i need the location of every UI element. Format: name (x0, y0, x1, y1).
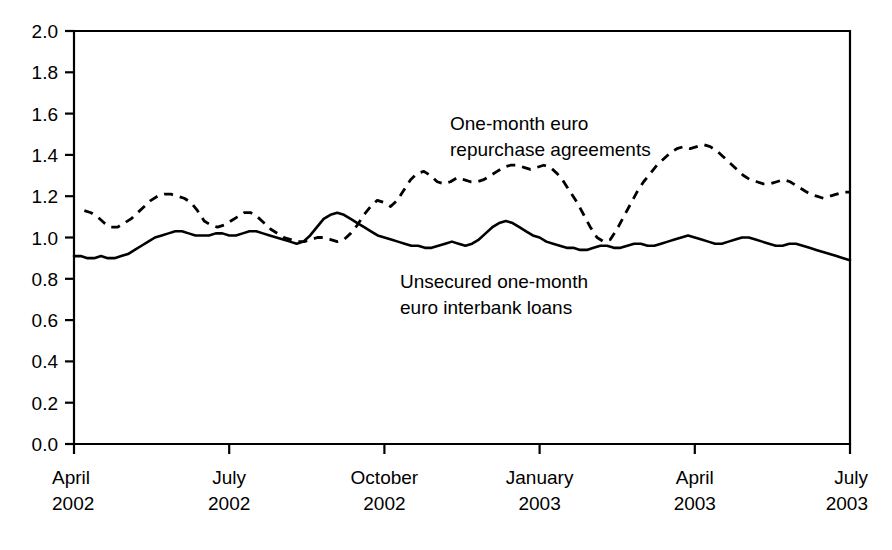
x-tick-label-year: 2002 (52, 493, 94, 514)
y-axis-tick-labels: 0.00.20.40.60.81.01.21.41.61.82.0 (32, 21, 59, 455)
x-tick-label-year: 2003 (674, 493, 716, 514)
x-tick-label-month: April (676, 467, 714, 488)
y-tick-label: 2.0 (32, 21, 58, 42)
y-tick-label: 0.0 (32, 434, 58, 455)
x-tick-label-month: January (506, 467, 574, 488)
annotation-repo: One-month euro repurchase agreements (450, 113, 651, 160)
x-axis-tick-labels: April2002July2002October2002January2003A… (52, 467, 868, 514)
annotation-repo-line1: One-month euro (450, 113, 588, 134)
y-tick-label: 0.8 (32, 269, 58, 290)
chart-figure: 0.00.20.40.60.81.01.21.41.61.82.0 April2… (0, 0, 892, 550)
y-axis-ticks (65, 31, 74, 444)
annotation-interbank-line1: Unsecured one-month (400, 271, 588, 292)
chart-canvas: 0.00.20.40.60.81.01.21.41.61.82.0 April2… (0, 0, 892, 550)
annotation-interbank-line2: euro interbank loans (400, 297, 572, 318)
x-tick-label-year: 2003 (518, 493, 560, 514)
x-tick-label-month: April (52, 467, 90, 488)
x-tick-label-month: July (212, 467, 246, 488)
plot-frame (74, 31, 850, 444)
y-tick-label: 1.8 (32, 62, 58, 83)
y-tick-label: 1.2 (32, 186, 58, 207)
y-tick-label: 1.6 (32, 104, 58, 125)
x-tick-label-year: 2002 (208, 493, 250, 514)
y-tick-label: 1.0 (32, 228, 58, 249)
annotation-interbank: Unsecured one-month euro interbank loans (400, 271, 588, 318)
series-interbank-line (74, 213, 850, 261)
annotation-repo-line2: repurchase agreements (450, 139, 651, 160)
x-tick-label-year: 2003 (826, 493, 868, 514)
y-tick-label: 0.6 (32, 310, 58, 331)
x-tick-label-month: October (351, 467, 419, 488)
y-tick-label: 0.2 (32, 393, 58, 414)
series-group (74, 145, 850, 261)
x-tick-label-year: 2002 (363, 493, 405, 514)
y-tick-label: 0.4 (32, 351, 59, 372)
axis-frame (74, 31, 850, 444)
x-tick-label-month: July (834, 467, 868, 488)
x-axis-ticks (74, 444, 850, 454)
y-tick-label: 1.4 (32, 145, 59, 166)
